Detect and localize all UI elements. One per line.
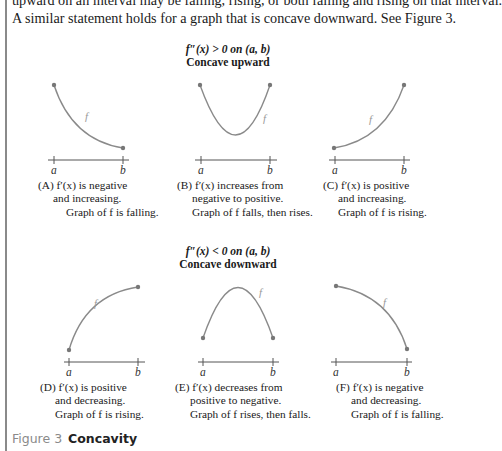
svg-text:b: b: [404, 366, 410, 378]
svg-text:f: f: [369, 113, 374, 125]
curve-d: [69, 287, 138, 350]
svg-text:b: b: [267, 164, 273, 176]
svg-text:b: b: [120, 164, 126, 176]
caption-b: (B) f′(x) increases from negative to pos…: [177, 179, 313, 219]
curve-b: [200, 85, 270, 135]
svg-text:a: a: [333, 366, 339, 378]
svg-text:f: f: [383, 296, 388, 308]
curve-a: [54, 85, 123, 148]
svg-text:a: a: [200, 366, 206, 378]
svg-text:a: a: [51, 164, 57, 176]
svg-text:b: b: [270, 366, 276, 378]
svg-text:a: a: [332, 164, 338, 176]
curve-f: [336, 286, 407, 349]
caption-e: (E) f′(x) decreases from positive to neg…: [175, 381, 311, 421]
svg-text:b: b: [401, 164, 407, 176]
svg-text:a: a: [198, 164, 204, 176]
svg-text:a: a: [66, 366, 72, 378]
curve-e: [203, 288, 273, 339]
svg-text:f: f: [85, 110, 90, 122]
caption-d: (D) f′(x) is positive and decreasing. Gr…: [40, 381, 144, 421]
figure-title: Concavity: [68, 431, 137, 446]
figure-caption: Figure 3Concavity: [12, 431, 137, 446]
svg-text:b: b: [135, 366, 141, 378]
svg-text:f: f: [259, 286, 264, 298]
figure-number: Figure 3: [12, 431, 62, 446]
caption-f: (F) f′(x) is negative and decreasing. Gr…: [336, 381, 444, 421]
svg-text:f: f: [263, 112, 268, 124]
caption-a: (A) f′(x) is negative and increasing. Gr…: [38, 179, 159, 219]
caption-c: (C) f′(x) is positive and increasing. Gr…: [323, 179, 427, 219]
